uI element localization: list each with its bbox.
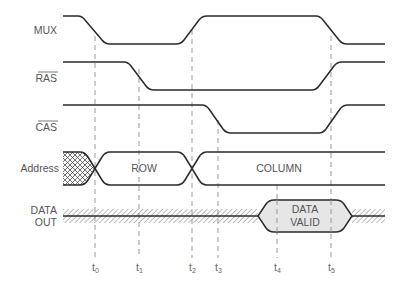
timing-diagram: MUX RAS CAS Address DATA OUT ROW COLUMN … [0, 0, 402, 287]
time-label-t4: t4 [274, 261, 281, 274]
label-cas: CAS [35, 121, 57, 133]
time-label-t0: t0 [92, 261, 99, 274]
data-valid-line2: VALID [290, 216, 320, 228]
data-valid-line1: DATA [292, 203, 318, 215]
time-label-t2: t2 [189, 261, 196, 274]
address-row-label: ROW [131, 162, 157, 174]
address-column-label: COLUMN [256, 162, 302, 174]
cas-waveform [63, 105, 385, 133]
time-label-t5: t5 [328, 261, 335, 274]
ras-waveform [63, 62, 385, 90]
time-label-t3: t3 [215, 261, 222, 274]
label-mux: MUX [34, 24, 57, 36]
address-bus-top [63, 152, 385, 169]
label-data-out-line1: DATA [31, 204, 57, 216]
mux-waveform [63, 16, 385, 44]
address-undefined-region [63, 152, 95, 185]
label-address: Address [20, 162, 59, 174]
time-label-t1: t1 [136, 261, 143, 274]
address-bus-bottom [63, 169, 385, 186]
label-data-out-line2: OUT [35, 216, 58, 228]
label-ras: RAS [35, 72, 57, 84]
